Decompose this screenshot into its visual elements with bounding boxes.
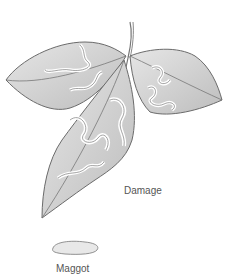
damage-label: Damage — [124, 185, 162, 196]
maggot-label: Maggot — [56, 263, 89, 274]
right-leaf-icon — [130, 49, 222, 114]
leaf-damage-illustration — [0, 0, 233, 278]
maggot-icon — [53, 241, 98, 254]
